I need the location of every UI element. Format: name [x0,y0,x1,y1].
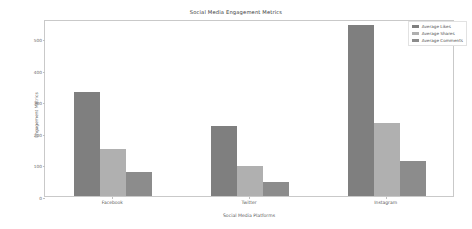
bar [211,126,237,196]
y-axis-label: Engagement Metrics [34,92,39,137]
bar [400,161,426,196]
y-tick-mark [43,103,45,104]
legend-label: Average Shares [422,31,455,36]
chart-title: Social Media Engagement Metrics [0,9,472,15]
legend-item[interactable]: Average Comments [412,37,463,43]
x-category-label: Facebook [102,200,123,205]
x-category-label: Twitter [241,200,256,205]
x-axis-label: Social Media Platforms [44,213,454,218]
bar [74,92,100,196]
chart-legend: Average LikesAverage SharesAverage Comme… [408,21,467,46]
x-tick-mark [386,197,387,199]
y-tick-mark [43,40,45,41]
bar [374,123,400,196]
legend-swatch-icon [412,25,419,28]
x-category-label: Instagram [374,200,397,205]
bar [237,166,263,196]
y-tick-mark [43,166,45,167]
legend-item[interactable]: Average Likes [412,24,463,30]
y-tick-mark [43,135,45,136]
x-tick-mark [112,197,113,199]
legend-label: Average Comments [422,38,463,43]
legend-item[interactable]: Average Shares [412,31,463,37]
y-tick-mark [43,72,45,73]
x-tick-mark [249,197,250,199]
legend-swatch-icon [412,39,419,42]
bar [126,172,152,196]
bar [348,25,374,196]
plot-area: 0100200300400500 [44,20,454,197]
legend-label: Average Likes [422,24,451,29]
bar [100,149,126,196]
bar [263,182,289,196]
chart-figure: Social Media Engagement Metrics Engageme… [0,0,472,229]
y-tick-mark [43,198,45,199]
legend-swatch-icon [412,32,419,35]
